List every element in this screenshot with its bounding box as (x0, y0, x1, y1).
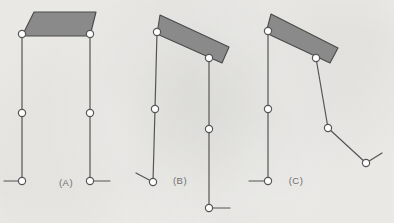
joint-right-bottom (86, 177, 93, 184)
joint-right-top (312, 54, 319, 61)
joint-left-bottom (149, 178, 156, 185)
joint-left-bottom (264, 177, 271, 184)
joint-left-middle (264, 105, 271, 112)
panel-label-c: (C) (289, 175, 304, 186)
joint-left-top (18, 30, 25, 37)
right-crank-upper (316, 58, 328, 128)
joint-left-top (264, 27, 271, 34)
coupler-plate (266, 14, 338, 63)
joint-right-middle (324, 124, 331, 131)
joint-right-middle (86, 109, 93, 116)
panels-group: (A)(B)(C) (4, 12, 382, 212)
left-crank-lower (153, 109, 155, 182)
joint-right-middle (205, 125, 212, 132)
joint-left-bottom (18, 177, 25, 184)
joint-left-middle (18, 109, 25, 116)
panel-label-b: (B) (173, 175, 187, 186)
left-crank-upper (155, 32, 157, 109)
linkage-panel-b: (B) (136, 15, 230, 212)
joint-left-top (153, 28, 160, 35)
joint-right-top (205, 54, 212, 61)
joint-right-top (86, 30, 93, 37)
coupler-plate (157, 15, 229, 63)
figure-root: (A)(B)(C) (0, 0, 394, 223)
joint-left-middle (151, 105, 158, 112)
linkage-panel-a: (A) (4, 12, 110, 188)
coupler-plate (22, 12, 96, 36)
linkage-diagram: (A)(B)(C) (0, 0, 394, 223)
joint-right-bottom (205, 204, 212, 211)
panel-label-a: (A) (59, 177, 73, 188)
joint-right-bottom (362, 159, 369, 166)
right-crank-lower (328, 128, 366, 163)
linkage-panel-c: (C) (249, 14, 382, 186)
